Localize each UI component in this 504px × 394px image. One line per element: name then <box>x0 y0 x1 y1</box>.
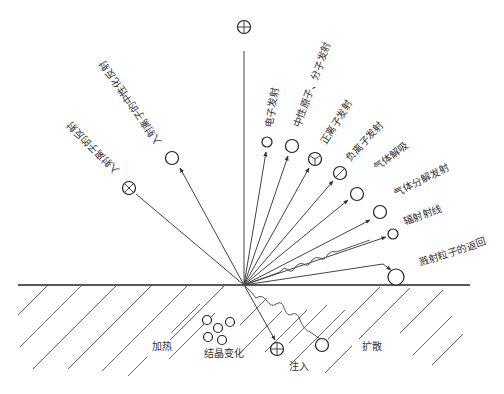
negative-ion-emission-path <box>244 181 333 285</box>
sputter-return-symbol <box>388 269 404 285</box>
neutralized-reflection-path <box>180 168 244 285</box>
label-radiation: 辐射射线 <box>402 202 444 227</box>
negative-ion-symbol <box>334 167 347 180</box>
label-negative-ion-emission: 负离子发射 <box>343 119 386 164</box>
implanted-ion-symbol <box>271 343 284 356</box>
neutral-atom-symbol <box>286 140 299 153</box>
label-neutralized-reflection: 入射离子的中性化反射 <box>96 59 163 148</box>
ion-reflection-path <box>136 194 244 285</box>
label-positive-ion-emission: 正离子发射 <box>318 97 355 146</box>
reflected-ion-symbol <box>123 182 136 195</box>
diffusion-wave <box>244 285 322 340</box>
crystal-change-atoms <box>203 316 235 345</box>
substrate-hatching <box>18 285 463 376</box>
label-ion-reflection: 入射离子的反射 <box>63 119 121 177</box>
neutralized-atom-symbol <box>166 152 179 165</box>
radiation-symbol <box>388 229 398 239</box>
ion-surface-interaction-diagram: 入射离子的反射 入射离子的中性化反射 电子发射 中性原子、分子发射 正离子发射 … <box>0 0 504 394</box>
label-electron-emission: 电子发射 <box>262 87 281 128</box>
radiation-path <box>244 237 386 285</box>
electron-symbol <box>262 137 272 147</box>
label-neutral-emission: 中性原子、分子发射 <box>291 40 333 129</box>
implantation-path <box>244 285 275 340</box>
incident-ion-symbol <box>238 21 251 34</box>
label-implantation: 注入 <box>289 360 309 372</box>
sputter-return-bend <box>383 264 391 270</box>
gas-decomposition-symbol <box>374 206 387 219</box>
label-gas-decomposition: 气体分解发射 <box>391 161 450 199</box>
label-heating: 加热 <box>152 340 172 352</box>
gas-desorption-path <box>244 200 348 285</box>
label-sputter-return: 溅射粒子的返回 <box>417 235 487 268</box>
diffused-atom-symbol <box>316 339 329 352</box>
positive-ion-symbol <box>309 153 322 166</box>
gas-desorption-symbol <box>351 188 364 201</box>
label-diffusion: 扩散 <box>362 340 382 352</box>
label-gas-desorption: 气体解吸 <box>371 138 410 172</box>
label-crystal-change: 结晶变化 <box>204 347 244 359</box>
